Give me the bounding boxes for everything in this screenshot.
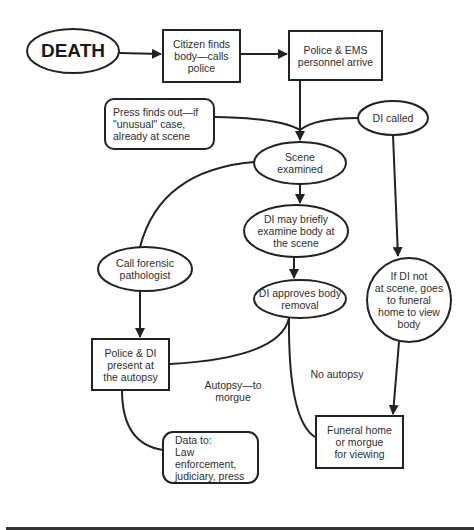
police-ems-node-label: Police & EMS personnel arrive: [289, 31, 382, 80]
call-pathologist-node-label: Call forensic pathologist: [98, 247, 192, 291]
edge-scene-pathologist: [140, 162, 254, 247]
di-not-at-scene-node-label: If DI not at scene, goes to funeral home…: [367, 258, 451, 342]
edge-approves-autopsy: [170, 318, 289, 364]
edge-notatscene-funeral: [393, 342, 399, 414]
di-approves-node-label: DI approves body removal: [254, 280, 346, 318]
data-to-node-label: Data to: Law enforcement, judiciary, pre…: [163, 432, 258, 483]
di-called-node-label: DI called: [358, 101, 428, 135]
death-node-label: DEATH: [27, 31, 119, 71]
police-di-autopsy-node-label: Police & DI present at the autopsy: [92, 339, 169, 390]
scene-examined-node-label: Scene examined: [254, 142, 346, 184]
edge-dicalled-scene: [300, 118, 358, 130]
edge-dicalled-notatscene: [393, 135, 398, 256]
funeral-home-node-label: Funeral home or morgue for viewing: [316, 416, 403, 468]
citizen-node-label: Citizen finds body—calls police: [163, 30, 240, 82]
no-autopsy-label: No autopsy: [302, 368, 372, 380]
autopsy-to-morgue-label: Autopsy—to morgue: [196, 379, 270, 403]
edge-death-citizen: [119, 53, 161, 54]
edge-autopsy-data: [122, 390, 163, 450]
edge-press-scene: [214, 117, 300, 130]
press-node-label: Press finds out—if "unusual" case, alrea…: [105, 99, 214, 149]
di-examine-node-label: DI may briefly examine body at the scene: [244, 205, 348, 257]
